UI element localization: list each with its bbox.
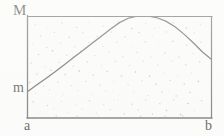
figure-container: M m a b — [0, 0, 224, 136]
label-endpoint-b: b — [205, 119, 212, 133]
function-plot-svg — [0, 0, 224, 136]
label-minimum-m: m — [13, 81, 24, 95]
label-maximum-M: M — [13, 3, 26, 18]
plot-interior — [27, 16, 212, 118]
label-endpoint-a: a — [24, 119, 30, 133]
